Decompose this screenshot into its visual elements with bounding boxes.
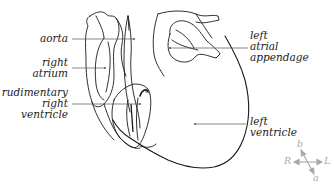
orientation-compass (294, 150, 322, 174)
label-rrv-line3: ventricle (0, 109, 68, 120)
left-ventricle-outline (113, 36, 249, 168)
compass-label-left: L (324, 155, 330, 166)
heart-diagram: aorta right atrium rudimentary right ven… (0, 0, 334, 184)
right-atrium-outline (86, 12, 120, 107)
label-left-atrial-appendage: left atrial appendage (250, 30, 309, 63)
leader-lines (72, 39, 248, 124)
compass-label-right: R (284, 155, 291, 166)
label-left-ventricle: left ventricle (250, 116, 297, 138)
left-atrial-appendage-outline (168, 21, 220, 62)
label-aorta: aorta (20, 33, 68, 44)
label-right-atrium: right atrium (10, 57, 68, 79)
compass-label-a: a (313, 172, 319, 183)
label-rudimentary-right-ventricle: rudimentary right ventricle (0, 87, 68, 120)
label-lv-line2: ventricle (250, 127, 297, 138)
label-right-atrium-line2: atrium (10, 68, 68, 79)
label-laa-line3: appendage (250, 52, 309, 63)
compass-label-b: b (297, 138, 303, 149)
